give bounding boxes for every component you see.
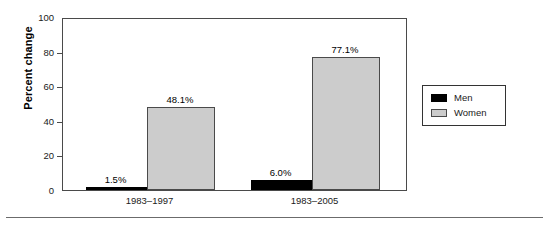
y-axis-tick-label: 0 [49, 186, 54, 196]
bar-women-0 [147, 107, 215, 190]
y-axis-tick-label: 80 [43, 48, 54, 58]
legend-label-women: Women [454, 108, 487, 118]
legend-label-men: Men [454, 93, 472, 103]
y-axis-tick-label: 40 [43, 117, 54, 127]
chart-legend: Men Women [422, 85, 506, 126]
y-axis-title: Percent change [22, 0, 34, 138]
legend-swatch-men-icon [431, 94, 447, 102]
bar-value-label-men-0: 1.5% [75, 175, 156, 185]
bar-value-label-women-0: 48.1% [136, 95, 224, 105]
x-axis-label-0: 1983–1997 [65, 196, 234, 206]
legend-item-women: Women [431, 108, 487, 118]
legend-item-men: Men [431, 93, 472, 103]
bar-chart-figure: Percent change 020406080100 1.5%48.1%6.0… [0, 0, 549, 231]
bar-value-label-men-1: 6.0% [240, 168, 321, 178]
footer-divider [6, 217, 543, 218]
bar-men-1 [251, 180, 312, 190]
x-axis-label-1: 1983–2005 [230, 196, 399, 206]
bar-men-0 [86, 187, 147, 190]
y-axis-tick-label: 100 [38, 13, 54, 23]
y-axis-tick-label: 20 [43, 151, 54, 161]
bar-women-1 [312, 57, 380, 190]
bar-value-label-women-1: 77.1% [301, 45, 389, 55]
y-axis-tick-label: 60 [43, 82, 54, 92]
legend-swatch-women-icon [431, 109, 447, 117]
